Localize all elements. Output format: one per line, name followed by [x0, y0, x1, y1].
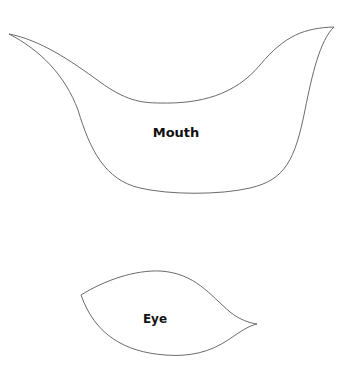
eye-outline [81, 271, 257, 355]
mouth-outline [9, 27, 334, 193]
mouth-label: Mouth [153, 125, 200, 140]
eye-shape: Eye [81, 271, 257, 355]
template-canvas: Mouth Eye [0, 0, 352, 372]
mouth-shape: Mouth [9, 27, 334, 193]
eye-label: Eye [143, 312, 167, 326]
